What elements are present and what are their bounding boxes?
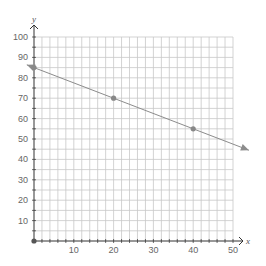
data-point — [191, 126, 196, 131]
y-tick-label: 60 — [18, 114, 28, 124]
y-tick-label: 80 — [18, 73, 28, 83]
y-tick-label: 20 — [18, 195, 28, 205]
x-tick-label: 40 — [188, 245, 198, 255]
y-tick-label: 40 — [18, 154, 28, 164]
x-tick-label: 10 — [69, 245, 79, 255]
x-tick-label: 50 — [228, 245, 238, 255]
y-tick-label: 70 — [18, 93, 28, 103]
data-point — [31, 65, 36, 70]
y-tick-label: 90 — [18, 52, 28, 62]
y-tick-label: 50 — [18, 134, 28, 144]
y-axis-label: y — [31, 14, 36, 24]
y-tick-label: 100 — [13, 32, 28, 42]
x-axis-label: x — [245, 236, 250, 246]
x-tick-label: 30 — [148, 245, 158, 255]
x-tick-label: 20 — [109, 245, 119, 255]
tick-labels: 1020304050102030405060708090100 — [13, 32, 238, 255]
axes — [30, 25, 243, 245]
y-tick-label: 10 — [18, 216, 28, 226]
line-arrowhead-icon — [240, 144, 249, 151]
grid — [34, 37, 233, 241]
y-tick-label: 30 — [18, 175, 28, 185]
origin-point — [31, 238, 36, 243]
line-chart: 1020304050102030405060708090100 x y — [0, 0, 266, 266]
data-point — [111, 96, 116, 101]
